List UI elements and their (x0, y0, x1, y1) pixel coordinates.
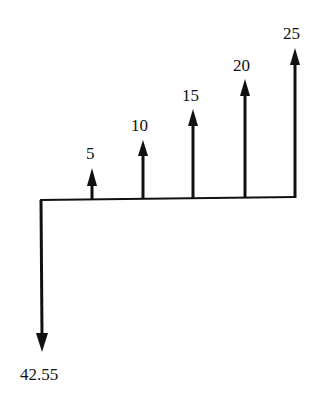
outflow-label: 42.55 (20, 365, 58, 384)
inflow-label-3: 15 (182, 86, 199, 105)
inflow-arrow-3 (188, 109, 198, 198)
inflow-label-5: 25 (283, 24, 300, 43)
inflow-arrow-1 (87, 168, 97, 199)
cash-flow-diagram: 42.55 5 10 15 20 25 (0, 0, 321, 402)
time-axis (40, 197, 296, 200)
inflow-label-4: 20 (233, 56, 250, 75)
inflow-label-2: 10 (131, 116, 148, 135)
inflow-arrow-5 (290, 48, 300, 198)
inflow-arrow-2 (138, 140, 148, 199)
outflow-arrow-0 (36, 200, 48, 352)
inflow-arrow-4 (240, 79, 250, 198)
inflow-label-1: 5 (86, 144, 95, 163)
